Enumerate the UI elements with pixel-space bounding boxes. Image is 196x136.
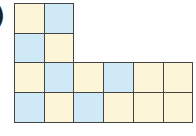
grid-cell bbox=[44, 62, 74, 93]
grid-cell bbox=[163, 92, 193, 123]
partial-label: ) bbox=[0, 2, 5, 30]
grid-cell bbox=[14, 33, 45, 63]
grid-cell bbox=[14, 3, 45, 34]
grid-cell bbox=[73, 62, 104, 93]
grid-cell bbox=[133, 92, 164, 123]
grid-cell bbox=[44, 3, 74, 34]
grid-cell bbox=[14, 62, 45, 93]
grid-cell bbox=[44, 33, 74, 63]
grid-cell bbox=[133, 62, 164, 93]
grid-cell bbox=[163, 62, 193, 93]
grid-cell bbox=[103, 92, 134, 123]
grid-cell bbox=[14, 92, 45, 123]
grid-cell bbox=[103, 62, 134, 93]
grid-cell bbox=[73, 92, 104, 123]
grid-cell bbox=[44, 92, 74, 123]
